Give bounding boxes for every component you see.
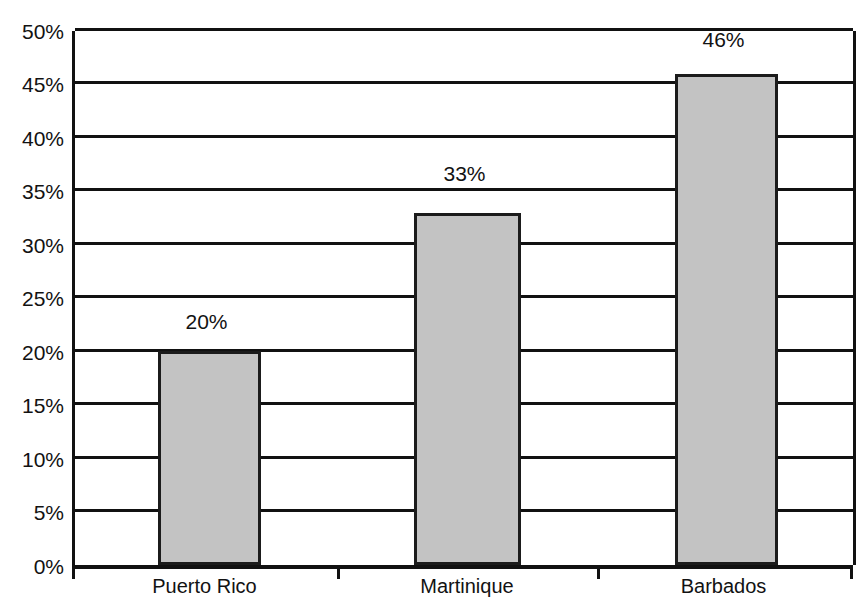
y-tick-label-40: 40% — [2, 128, 64, 149]
y-tick-label-10: 10% — [2, 449, 64, 470]
y-tick-label-15: 15% — [2, 395, 64, 416]
bar-chart: 50% 45% 40% 35% 30% 25% 20% 15% 10% 5% 0… — [0, 0, 867, 607]
y-tick-label-50: 50% — [2, 21, 64, 42]
plot-area — [72, 31, 856, 565]
y-tick-label-20: 20% — [2, 342, 64, 363]
x-category-label-barbados: Barbados — [597, 575, 850, 597]
x-axis-tick-3 — [850, 565, 853, 579]
bar-value-label-barbados: 46% — [672, 29, 775, 50]
bar-value-label-puerto-rico: 20% — [155, 311, 258, 332]
y-tick-label-35: 35% — [2, 181, 64, 202]
bar-value-label-martinique: 33% — [411, 163, 518, 184]
x-axis-line — [72, 565, 853, 569]
x-category-label-martinique: Martinique — [337, 575, 597, 597]
bar-barbados[interactable] — [675, 74, 778, 565]
y-tick-label-45: 45% — [2, 74, 64, 95]
y-tick-label-25: 25% — [2, 288, 64, 309]
y-tick-label-0: 0% — [2, 556, 64, 577]
y-tick-label-30: 30% — [2, 235, 64, 256]
x-category-label-puerto-rico: Puerto Rico — [72, 575, 337, 597]
bar-puerto-rico[interactable] — [158, 351, 261, 565]
y-axis: 50% 45% 40% 35% 30% 25% 20% 15% 10% 5% 0… — [0, 0, 64, 607]
y-tick-label-5: 5% — [2, 502, 64, 523]
bar-martinique[interactable] — [414, 213, 521, 565]
